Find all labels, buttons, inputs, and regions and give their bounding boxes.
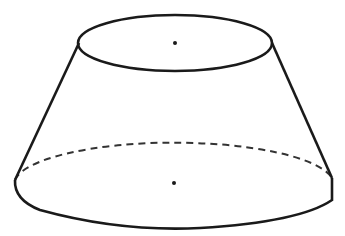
frustum-diagram xyxy=(0,0,345,236)
top-center-point xyxy=(173,41,177,45)
bottom-base-hidden-arc xyxy=(15,143,332,180)
bottom-center-point xyxy=(172,181,176,185)
right-slant-edge xyxy=(272,43,332,178)
bottom-base-visible-arc xyxy=(15,178,332,229)
